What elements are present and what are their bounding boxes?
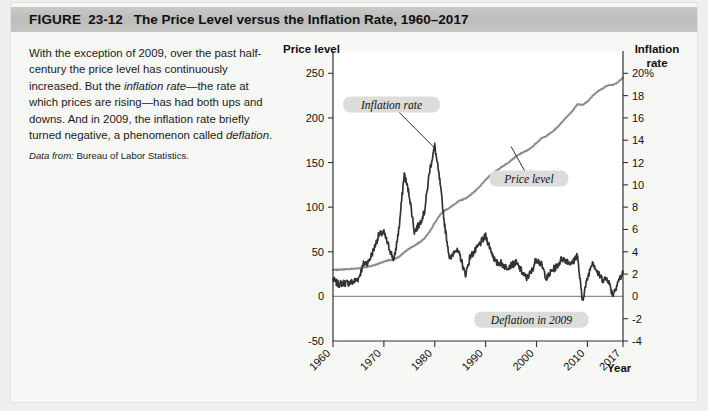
right-tick-label: 6 bbox=[632, 223, 638, 235]
left-tick-label: 50 bbox=[312, 246, 324, 258]
right-tick-label: 14 bbox=[632, 134, 644, 146]
caption-emphasis-deflation: deflation bbox=[226, 129, 269, 141]
figure-container: FIGURE 23-12 The Price Level versus the … bbox=[11, 3, 697, 402]
left-tick-label: 100 bbox=[306, 201, 324, 213]
left-axis-ticks: 250200150100500-50 bbox=[306, 67, 333, 347]
right-tick-label: 18 bbox=[632, 90, 644, 102]
annotation-inflation-rate-label: Inflation rate bbox=[360, 99, 422, 112]
figure-source: Data from: Bureau of Labor Statistics. bbox=[29, 148, 277, 164]
right-axis-title-line1: Inflation rate bbox=[635, 43, 680, 69]
figure-caption: With the exception of 2009, over the pas… bbox=[29, 45, 277, 165]
left-tick-label: 0 bbox=[318, 290, 324, 302]
x-axis-ticks: 1960197019801990200020102017 bbox=[307, 341, 623, 373]
right-axis-title: Inflation rate bbox=[624, 43, 690, 70]
x-tick-label: 1970 bbox=[357, 347, 383, 373]
annotation-deflation-2009-label: Deflation in 2009 bbox=[490, 314, 572, 327]
left-axis-title-line1: Price level bbox=[283, 43, 340, 55]
source-lead: Data from: bbox=[29, 150, 74, 161]
figure-title: The Price Level versus the Inflation Rat… bbox=[134, 12, 469, 27]
figure-header-band: FIGURE 23-12 The Price Level versus the … bbox=[11, 7, 697, 32]
chart: Price level Inflation rate Year 25020015… bbox=[269, 33, 689, 383]
x-tick-label: 1980 bbox=[408, 347, 434, 373]
right-tick-label: 8 bbox=[632, 201, 638, 213]
x-axis-title: Year bbox=[607, 362, 631, 374]
right-tick-label: 16 bbox=[632, 112, 644, 124]
left-tick-label: 150 bbox=[306, 157, 324, 169]
figure-label: FIGURE bbox=[29, 12, 81, 27]
left-tick-label: 250 bbox=[306, 67, 324, 79]
x-tick-label: 2010 bbox=[561, 347, 587, 373]
right-tick-label: 2 bbox=[632, 268, 638, 280]
right-axis-ticks: 20%181614121086420-2-4 bbox=[623, 67, 654, 347]
annotation-deflation-2009: Deflation in 2009 bbox=[474, 312, 588, 328]
x-tick-label: 2000 bbox=[510, 347, 536, 373]
right-tick-label: 10 bbox=[632, 179, 644, 191]
x-tick-label: 1960 bbox=[307, 347, 333, 373]
right-tick-label: -4 bbox=[632, 335, 642, 347]
right-tick-label: -2 bbox=[632, 313, 642, 325]
plot-svg: 250200150100500-50 20%181614121086420-2-… bbox=[269, 33, 689, 383]
plot-background bbox=[333, 51, 623, 341]
right-tick-label: 12 bbox=[632, 157, 644, 169]
right-tick-label: 4 bbox=[632, 246, 638, 258]
annotation-price-level-label: Price level bbox=[503, 173, 553, 185]
x-tick-label: 1990 bbox=[459, 347, 485, 373]
left-tick-label: 200 bbox=[306, 112, 324, 124]
left-tick-label: -50 bbox=[308, 335, 324, 347]
source-text: Bureau of Labor Statistics. bbox=[74, 150, 189, 161]
figure-number: 23-12 bbox=[88, 12, 123, 27]
right-tick-label: 0 bbox=[632, 290, 638, 302]
caption-emphasis-inflation-rate: inflation rate bbox=[124, 80, 186, 92]
left-axis-title: Price level bbox=[283, 43, 343, 57]
